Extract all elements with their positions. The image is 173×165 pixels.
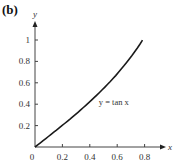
y-tick-label: 0.6 [19,78,31,88]
x-axis-arrow-icon [160,145,166,150]
labels: xy00.20.40.60.80.20.40.60.81y = tan x [19,9,172,162]
y-axis-label: y [32,9,37,19]
y-axis-arrow-icon [33,21,38,27]
x-axis-label: x [167,142,172,152]
x-tick-label: 0.6 [112,152,124,162]
y-tick-label: 0.8 [19,56,31,66]
origin-label: 0 [30,152,35,162]
curve-tan-x [35,40,143,147]
chart: xy00.20.40.60.80.20.40.60.81y = tan x [0,0,173,165]
y-tick-label: 0.2 [19,121,30,131]
y-tick-label: 1 [26,35,31,45]
ticks [35,40,145,147]
y-tick-label: 0.4 [19,99,31,109]
x-tick-label: 0.2 [57,152,68,162]
curve-annotation: y = tan x [99,97,130,107]
series [35,40,143,147]
axes [33,21,167,150]
x-tick-label: 0.8 [139,152,151,162]
x-tick-label: 0.4 [84,152,96,162]
